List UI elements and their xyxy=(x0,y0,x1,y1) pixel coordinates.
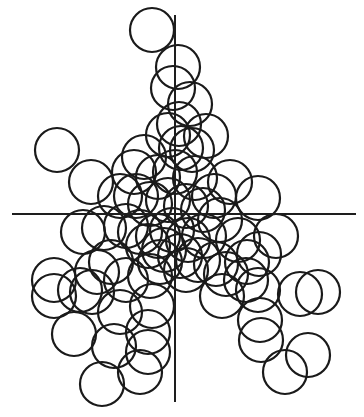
circle-group xyxy=(32,8,340,406)
circle-marker xyxy=(89,240,133,284)
circle-marker xyxy=(130,8,174,52)
circle-marker xyxy=(98,290,142,334)
circle-marker xyxy=(35,128,79,172)
circle-marker xyxy=(238,298,282,342)
circle-marker xyxy=(69,160,113,204)
circle-scatter-diagram xyxy=(0,0,364,417)
circle-marker xyxy=(239,318,283,362)
diagram-canvas xyxy=(0,0,364,417)
circle-marker xyxy=(52,312,96,356)
circle-marker xyxy=(126,310,170,354)
